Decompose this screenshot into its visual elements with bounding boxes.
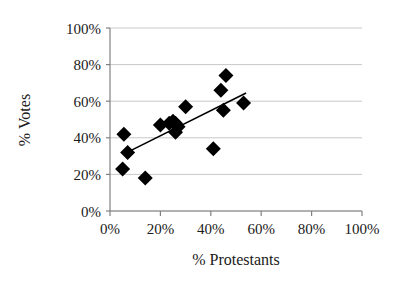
y-tick-labels: 0%20%40%60%80%100% — [66, 21, 101, 220]
data-point-marker — [213, 83, 228, 98]
gridlines — [110, 28, 362, 211]
data-point-marker — [116, 127, 131, 142]
x-tick-label: 100% — [345, 221, 380, 237]
data-point-marker — [218, 68, 233, 83]
x-tick-labels: 0%20%40%60%80%100% — [100, 221, 380, 237]
y-tick-label: 40% — [74, 130, 102, 146]
x-tick-label: 80% — [298, 221, 326, 237]
data-point-marker — [206, 141, 221, 156]
x-tick-label: 40% — [197, 221, 225, 237]
axis-lines — [110, 28, 362, 211]
data-point-marker — [236, 96, 251, 111]
y-tick-label: 60% — [74, 94, 102, 110]
x-tick-label: 20% — [147, 221, 175, 237]
x-tick-label: 0% — [100, 221, 120, 237]
y-axis-title: % Votes — [16, 94, 33, 146]
data-points — [115, 68, 251, 185]
y-tick-label: 100% — [66, 21, 101, 37]
data-point-marker — [120, 145, 135, 160]
axis-ticks — [106, 28, 362, 216]
data-point-marker — [216, 103, 231, 118]
x-axis-title: % Protestants — [192, 251, 280, 268]
y-tick-label: 0% — [81, 204, 101, 220]
plot-canvas: 0%20%40%60%80%100% 0%20%40%60%80%100% % … — [0, 0, 404, 292]
data-point-marker — [138, 171, 153, 186]
y-tick-label: 20% — [74, 167, 102, 183]
y-tick-label: 80% — [74, 57, 102, 73]
scatter-chart: 0%20%40%60%80%100% 0%20%40%60%80%100% % … — [0, 0, 404, 292]
x-tick-label: 60% — [247, 221, 275, 237]
